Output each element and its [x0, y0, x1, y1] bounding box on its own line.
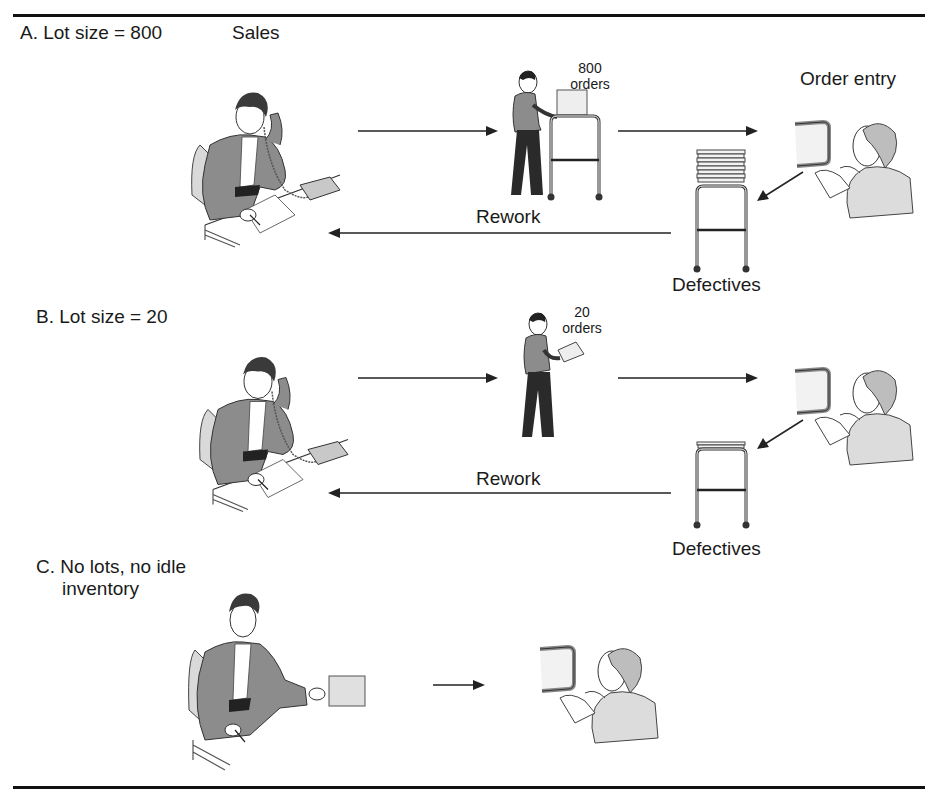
arrow-down-left-icon [755, 418, 805, 450]
defectives-cart-small-stack-icon [692, 440, 752, 530]
defectives-label: Defectives [672, 274, 761, 296]
sales-person-phone-icon [180, 75, 350, 245]
rework-label: Rework [476, 206, 540, 228]
section-c-title-line2: inventory [62, 578, 139, 600]
defectives-label: Defectives [672, 538, 761, 560]
defectives-cart-stack-icon [692, 148, 752, 273]
arrow-left-icon [328, 487, 671, 499]
worker-carrying-orders-icon [518, 312, 588, 444]
arrow-right-icon [358, 372, 498, 384]
arrow-left-icon [328, 227, 671, 239]
order-entry-person-computer-icon [795, 365, 915, 465]
top-rule [13, 14, 925, 17]
sales-label: Sales [232, 22, 280, 44]
arrow-right-icon [433, 679, 485, 691]
arrow-down-left-icon [755, 170, 805, 202]
order-entry-label: Order entry [800, 68, 896, 90]
order-entry-person-computer-icon [795, 118, 915, 218]
arrow-right-icon [618, 372, 758, 384]
section-c-title-line1: C. No lots, no idle [36, 556, 186, 578]
bottom-rule [13, 786, 925, 789]
arrow-right-icon [618, 125, 758, 137]
sales-person-handing-order-icon [185, 580, 365, 770]
section-a-title: A. Lot size = 800 [20, 22, 162, 44]
section-b-title: B. Lot size = 20 [36, 306, 168, 328]
worker-pushing-cart-icon [505, 70, 615, 205]
order-entry-person-computer-icon [540, 643, 660, 743]
arrow-right-icon [358, 125, 498, 137]
